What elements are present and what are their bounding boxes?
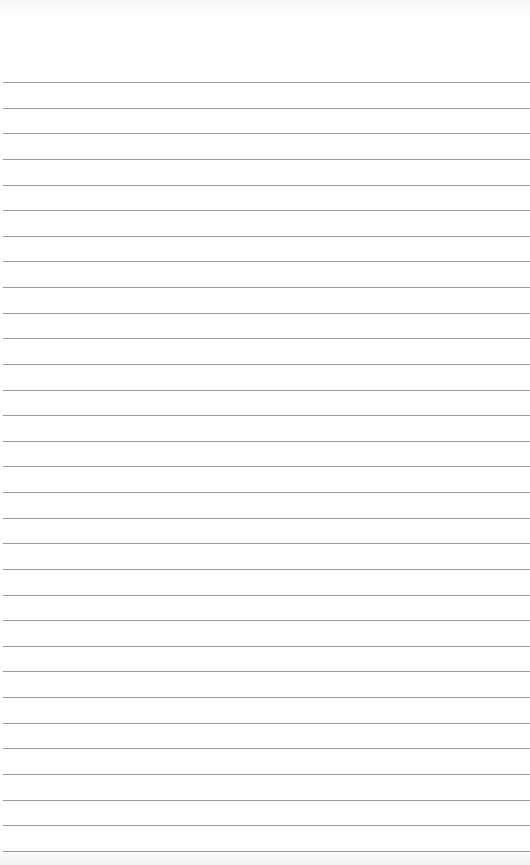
ruled-line <box>3 492 530 493</box>
ruled-line <box>3 415 530 416</box>
ruled-line <box>3 133 530 134</box>
ruled-line <box>3 364 530 365</box>
ruled-line <box>3 159 530 160</box>
ruled-line <box>3 313 530 314</box>
ruled-line <box>3 390 530 391</box>
ruled-line <box>3 774 530 775</box>
lined-paper-sheet <box>0 0 530 865</box>
ruled-line <box>3 261 530 262</box>
ruled-line <box>3 620 530 621</box>
ruled-line <box>3 646 530 647</box>
ruled-line <box>3 825 530 826</box>
ruled-line <box>3 236 530 237</box>
ruled-line <box>3 723 530 724</box>
ruled-line <box>3 441 530 442</box>
ruled-line <box>3 338 530 339</box>
ruled-line <box>3 595 530 596</box>
ruled-line <box>3 108 530 109</box>
ruled-line <box>3 518 530 519</box>
ruled-line <box>3 800 530 801</box>
ruled-line <box>3 748 530 749</box>
ruled-line <box>3 466 530 467</box>
ruled-line <box>3 851 530 852</box>
ruled-line <box>3 543 530 544</box>
ruled-line <box>3 210 530 211</box>
ruled-line <box>3 185 530 186</box>
ruled-line <box>3 569 530 570</box>
ruled-line <box>3 671 530 672</box>
ruled-line <box>3 82 530 83</box>
ruled-line <box>3 697 530 698</box>
ruled-line <box>3 287 530 288</box>
